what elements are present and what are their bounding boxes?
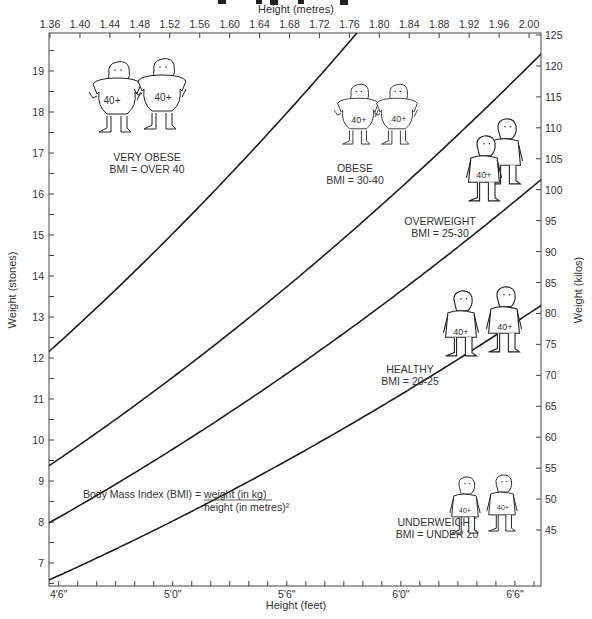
right-tick-label: 80 xyxy=(545,307,557,319)
right-tick-label: 70 xyxy=(545,369,557,381)
right-tick-label: 60 xyxy=(545,431,557,443)
left-tick-label: 12 xyxy=(32,352,44,364)
zone-obese: OBESE BMI = 30-40 xyxy=(326,162,384,186)
right-tick-label: 65 xyxy=(545,400,557,412)
right-tick-label: 55 xyxy=(545,462,557,474)
top-tick-label: 1.52 xyxy=(160,18,181,30)
top-tick-label: 1.40 xyxy=(70,18,91,30)
top-tick-label: 1.60 xyxy=(219,18,240,30)
shirt-text: 40+ xyxy=(391,114,406,124)
zone-name: VERY OBESE xyxy=(113,151,180,163)
formula-prefix: Body Mass Index (BMI) = xyxy=(83,488,201,500)
zone-range: BMI = 20-25 xyxy=(381,375,439,387)
zone-overweight: OVERWEIGHT BMI = 25-30 xyxy=(404,215,476,239)
bottom-tick-label: 6'0" xyxy=(392,588,410,600)
figures-overweight: 40+ xyxy=(466,119,522,201)
top-tick-label: 1.56 xyxy=(189,18,210,30)
zone-range: BMI = 25-30 xyxy=(411,227,469,239)
top-tick-label: 1.96 xyxy=(489,18,510,30)
right-tick-label: 50 xyxy=(545,493,557,505)
top-tick-label: 1.84 xyxy=(399,18,420,30)
zone-name: OVERWEIGHT xyxy=(404,215,476,227)
right-tick-label: 95 xyxy=(545,215,557,227)
bmi-formula: Body Mass Index (BMI) = weight (in kg) h… xyxy=(83,488,290,513)
shirt-text: 40+ xyxy=(476,170,491,180)
right-axis-ticks: 4550556065707580859095100105110115120125 xyxy=(536,29,563,536)
left-tick-label: 18 xyxy=(32,106,44,118)
left-tick-label: 15 xyxy=(32,229,44,241)
figures-obese: 40+ 40+ xyxy=(334,84,417,144)
left-tick-label: 13 xyxy=(32,311,44,323)
left-tick-label: 7 xyxy=(38,557,44,569)
left-tick-label: 16 xyxy=(32,188,44,200)
top-axis-title: Height (metres) xyxy=(258,3,334,15)
zone-name: UNDERWEIGHT xyxy=(397,516,477,528)
bottom-axis-title: Height (feet) xyxy=(266,599,327,611)
figures-very-obese: 40+ 40+ xyxy=(89,59,186,132)
shirt-text: 40+ xyxy=(351,115,366,125)
zone-underweight: UNDERWEIGHT BMI = UNDER 20 xyxy=(396,516,479,540)
top-tick-label: 2.00 xyxy=(519,18,540,30)
right-tick-label: 85 xyxy=(545,277,557,289)
zone-name: HEALTHY xyxy=(386,363,434,375)
zone-range: BMI = 30-40 xyxy=(326,174,384,186)
shirt-text: 40+ xyxy=(497,504,509,511)
top-tick-label: 1.64 xyxy=(249,18,270,30)
top-tick-label: 1.88 xyxy=(429,18,450,30)
bmi-chart: 1.361.401.441.481.521.561.601.641.681.72… xyxy=(0,0,592,619)
bmi-40-curve xyxy=(28,0,567,371)
zone-range: BMI = UNDER 20 xyxy=(396,528,479,540)
top-tick-label: 1.36 xyxy=(40,18,61,30)
right-tick-label: 45 xyxy=(545,524,557,536)
left-tick-label: 19 xyxy=(32,65,44,77)
top-tick-label: 1.68 xyxy=(279,18,300,30)
figures-underweight: 40+ 40+ xyxy=(450,475,517,533)
bottom-tick-label: 6'6" xyxy=(506,588,524,600)
top-tick-label: 1.44 xyxy=(100,18,121,30)
shirt-text: 40+ xyxy=(453,327,468,337)
right-axis-title: Weight (kilos) xyxy=(572,257,584,323)
formula-numerator: weight (in kg) xyxy=(203,488,266,500)
bmi-20-curve xyxy=(28,288,567,589)
shirt-text: 40+ xyxy=(104,95,121,106)
top-axis-ticks: 1.361.401.441.481.521.561.601.641.681.72… xyxy=(40,18,540,38)
top-tick-label: 1.80 xyxy=(369,18,390,30)
right-tick-label: 75 xyxy=(545,338,557,350)
zone-healthy: HEALTHY BMI = 20-25 xyxy=(381,363,439,387)
bottom-axis-ticks: 4'6"5'0"5'6"6'0"6'6" xyxy=(50,581,534,600)
top-tick-label: 1.72 xyxy=(309,18,330,30)
right-tick-label: 120 xyxy=(545,60,563,72)
bmi-25-curve xyxy=(28,158,567,534)
right-tick-label: 90 xyxy=(545,246,557,258)
bottom-tick-label: 4'6" xyxy=(50,588,68,600)
right-tick-label: 100 xyxy=(545,184,563,196)
formula-denominator: height (in metres)² xyxy=(204,501,290,513)
left-tick-label: 8 xyxy=(38,516,44,528)
left-tick-label: 11 xyxy=(33,393,44,405)
figures-healthy: 40+ 40+ xyxy=(443,287,521,356)
left-tick-label: 10 xyxy=(32,434,44,446)
left-tick-label: 17 xyxy=(32,147,44,159)
right-tick-label: 110 xyxy=(545,122,562,134)
right-tick-label: 105 xyxy=(545,153,563,165)
top-tick-label: 1.76 xyxy=(339,18,360,30)
left-axis-title: Weight (stones) xyxy=(6,252,18,329)
shirt-text: 40+ xyxy=(497,322,512,332)
zone-range: BMI = OVER 40 xyxy=(110,163,185,175)
right-tick-label: 125 xyxy=(545,29,563,41)
left-tick-label: 9 xyxy=(38,475,44,487)
right-tick-label: 115 xyxy=(545,91,562,103)
top-tick-label: 1.92 xyxy=(459,18,480,30)
shirt-text: 40+ xyxy=(459,507,471,514)
zone-name: OBESE xyxy=(337,162,373,174)
left-axis-ticks: 78910111213141516171819 xyxy=(32,51,54,584)
shirt-text: 40+ xyxy=(155,92,172,103)
bottom-tick-label: 5'0" xyxy=(164,588,182,600)
zone-very-obese: VERY OBESE BMI = OVER 40 xyxy=(110,151,185,175)
top-tick-label: 1.48 xyxy=(130,18,151,30)
left-tick-label: 14 xyxy=(32,270,44,282)
